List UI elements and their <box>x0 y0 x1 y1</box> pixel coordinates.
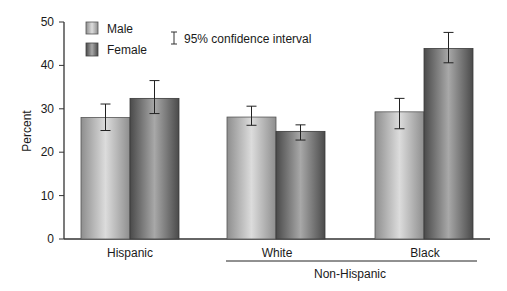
bars <box>81 32 473 239</box>
y-axis: 01020304050 Percent <box>20 15 64 246</box>
y-tick-label: 10 <box>41 189 55 203</box>
legend-label-male: Male <box>107 22 133 36</box>
bar-hispanic-female <box>130 98 179 239</box>
bar-white-male <box>227 117 276 239</box>
legend-swatch-male <box>86 22 98 34</box>
y-tick-label: 20 <box>41 145 55 159</box>
confidence-interval-icon <box>171 32 177 44</box>
y-axis-label: Percent <box>20 110 34 152</box>
bar-chart: 01020304050 Percent Hispanic White Black… <box>0 0 507 291</box>
bar-black-female <box>424 48 473 239</box>
bar-white-female <box>276 131 325 239</box>
group-label-non-hispanic: Non-Hispanic <box>314 267 386 281</box>
legend-label-female: Female <box>107 43 147 57</box>
y-tick-label: 30 <box>41 102 55 116</box>
y-tick-label: 40 <box>41 58 55 72</box>
legend: Male Female 95% confidence interval <box>86 22 311 57</box>
bar-black-male <box>375 112 424 239</box>
y-tick-label: 50 <box>41 15 55 29</box>
legend-label-ci: 95% confidence interval <box>184 32 311 46</box>
category-label-white: White <box>262 246 293 260</box>
y-tick-label: 0 <box>47 232 54 246</box>
legend-swatch-female <box>86 43 98 56</box>
category-label-hispanic: Hispanic <box>107 246 153 260</box>
category-label-black: Black <box>410 246 440 260</box>
bar-hispanic-male <box>81 117 130 239</box>
